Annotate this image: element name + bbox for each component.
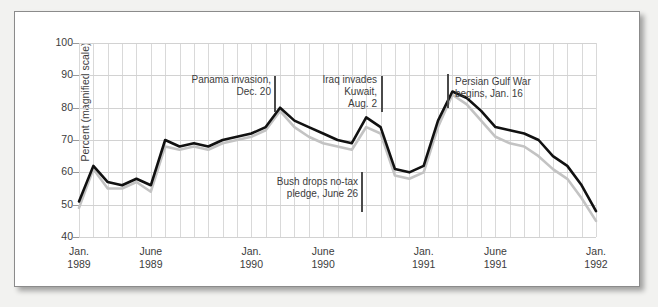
x-axis-tick-label: Jan.1991 <box>384 245 464 271</box>
data-lines <box>79 43 596 237</box>
x-tick-month: June <box>455 245 535 258</box>
y-axis-tick-label: 40 <box>43 230 73 242</box>
annotation-label-iraq-invades-kuwait: Iraq invades Kuwait, Aug. 2 <box>303 74 377 110</box>
x-axis-tick-label: Jan.1990 <box>211 245 291 271</box>
x-tick-month: Jan. <box>556 245 636 258</box>
y-axis-tick-label: 90 <box>43 68 73 80</box>
data-line-approval-gray <box>79 95 596 221</box>
chart-card: Percent (magnified scale) 40506070809010… <box>14 11 640 287</box>
plot-wrapper: Percent (magnified scale) 40506070809010… <box>15 12 639 286</box>
x-tick-month: June <box>111 245 191 258</box>
x-axis-tick-labels: Jan.1989June1989Jan.1990June1990Jan.1991… <box>79 245 596 279</box>
y-axis-tick-label: 100 <box>43 36 73 48</box>
annotation-marker-panama <box>274 76 276 112</box>
y-axis-tick-label: 70 <box>43 133 73 145</box>
x-tick-year: 1990 <box>283 258 363 271</box>
x-axis-tick-label: June1991 <box>455 245 535 271</box>
x-tick-year: 1992 <box>556 258 636 271</box>
x-tick-month: Jan. <box>211 245 291 258</box>
x-axis-tick-label: Jan.1992 <box>556 245 636 271</box>
annotation-label-panama: Panama invasion, Dec. 20 <box>183 74 271 98</box>
y-axis-tick-labels: 405060708090100 <box>33 43 73 237</box>
x-axis-tick-label: June1990 <box>283 245 363 271</box>
x-axis-tick-label: June1989 <box>111 245 191 271</box>
annotation-label-persian-gulf-war: Persian Gulf War begins, Jan. 16 <box>455 76 565 100</box>
x-tick-year: 1991 <box>455 258 535 271</box>
gridline-horizontal <box>79 237 596 238</box>
y-axis-tick-label: 50 <box>43 198 73 210</box>
x-tick-year: 1991 <box>384 258 464 271</box>
x-tick-month: Jan. <box>384 245 464 258</box>
plot-area <box>79 43 596 237</box>
x-tick-year: 1990 <box>211 258 291 271</box>
annotation-marker-persian-gulf-war <box>447 74 449 108</box>
chart-screenshot: Percent (magnified scale) 40506070809010… <box>0 0 658 307</box>
x-axis-tick-label: Jan.1989 <box>39 245 119 271</box>
gridline-vertical <box>596 43 597 237</box>
annotation-marker-iraq-invades-kuwait <box>381 76 383 112</box>
y-axis-tick-label: 60 <box>43 165 73 177</box>
annotation-label-bush-no-tax-pledge: Bush drops no-tax pledge, June 26 <box>258 176 358 200</box>
y-axis-tick-label: 80 <box>43 101 73 113</box>
x-tick-year: 1989 <box>39 258 119 271</box>
x-tick-year: 1989 <box>111 258 191 271</box>
annotation-marker-bush-no-tax-pledge <box>361 172 363 212</box>
x-tick-month: June <box>283 245 363 258</box>
x-tick-month: Jan. <box>39 245 119 258</box>
